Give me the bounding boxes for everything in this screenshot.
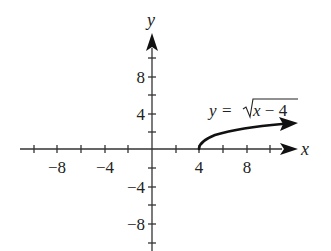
equation-label: y = x − 4 <box>207 99 298 120</box>
x-axis-label: x <box>300 139 309 159</box>
x-tick-label-neg8: −8 <box>48 158 66 177</box>
y-tick-label-neg4: −4 <box>127 178 146 197</box>
y-tick-label-4: 4 <box>137 105 146 124</box>
y-tick-label-8: 8 <box>137 68 146 87</box>
x-tick-label-4: 4 <box>195 158 204 177</box>
x-tick-label-neg4: −4 <box>96 158 115 177</box>
y-axis: 8 4 −4 −8 y <box>127 10 158 251</box>
graph-canvas: −8 −4 4 8 x 8 4 −4 −8 y y <box>0 0 331 251</box>
y-axis-label: y <box>145 10 155 30</box>
x-axis: −8 −4 4 8 x <box>20 139 309 177</box>
y-tick-label-neg8: −8 <box>127 215 145 234</box>
equation-radicand: x − 4 <box>252 101 288 120</box>
x-axis-arrow-icon <box>280 143 298 155</box>
x-tick-label-8: 8 <box>243 158 252 177</box>
equation-lhs: y <box>207 101 217 120</box>
equation-equals: = <box>222 101 232 120</box>
